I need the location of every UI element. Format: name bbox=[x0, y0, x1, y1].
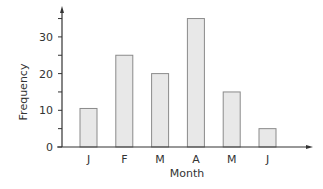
x-tick-label: J bbox=[265, 153, 269, 166]
y-ticks: 0102030 bbox=[39, 19, 62, 154]
bar-3 bbox=[187, 19, 204, 147]
x-axis-label: Month bbox=[170, 167, 205, 180]
bar-0 bbox=[80, 108, 97, 147]
x-axis-arrow-icon bbox=[306, 145, 313, 149]
x-tick-label: M bbox=[227, 153, 237, 166]
x-tick-label: F bbox=[121, 153, 127, 166]
bar-5 bbox=[259, 129, 276, 147]
y-axis-arrow-icon bbox=[60, 6, 64, 13]
bar-4 bbox=[223, 92, 240, 147]
x-tick-label: M bbox=[155, 153, 165, 166]
x-tick-label: A bbox=[192, 153, 200, 166]
bar-1 bbox=[116, 55, 133, 147]
y-axis-label: Frequency bbox=[17, 63, 30, 120]
y-tick-label: 10 bbox=[39, 104, 53, 117]
bar-chart: 0102030 JFMAMJ Frequency Month bbox=[0, 0, 323, 189]
x-tick-label: J bbox=[86, 153, 90, 166]
y-tick-label: 20 bbox=[39, 68, 53, 81]
y-tick-label: 30 bbox=[39, 31, 53, 44]
y-tick-label: 0 bbox=[46, 141, 53, 154]
bars bbox=[80, 19, 276, 147]
bar-2 bbox=[152, 74, 169, 147]
x-ticks: JFMAMJ bbox=[86, 153, 269, 166]
